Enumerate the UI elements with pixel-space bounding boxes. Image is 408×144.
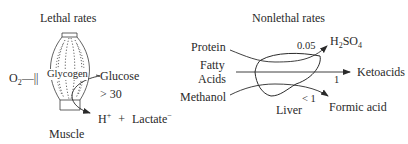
- liver-label: Liver: [276, 104, 302, 116]
- oxygen-blocked-label: O2—||: [9, 72, 38, 84]
- fatty-acids-rate-value: 1: [334, 75, 339, 86]
- liver-shape: [255, 53, 320, 96]
- metabolic-rates-diagram: Lethal rates O2—|| Glycogen Glucose > 30…: [0, 0, 408, 144]
- lactate-product-label: H+ + Lactate−: [98, 113, 172, 125]
- protein-rate-value: 0.05: [297, 41, 315, 52]
- lethal-rates-title: Lethal rates: [40, 12, 96, 24]
- protein-label: Protein: [191, 41, 226, 53]
- methanol-label: Methanol: [180, 91, 226, 103]
- muscle-label: Muscle: [49, 128, 84, 140]
- muscle-rate-value: > 30: [100, 88, 122, 100]
- nonlethal-rates-title: Nonlethal rates: [252, 12, 325, 24]
- acids-label: Acids: [198, 73, 226, 85]
- glucose-label: Glucose: [100, 70, 139, 82]
- glucose-arrow: [72, 76, 100, 113]
- methanol-rate-value: < 1: [302, 94, 316, 105]
- formic-acid-label: Formic acid: [329, 101, 387, 113]
- sulfuric-acid-label: H2SO4: [330, 35, 362, 47]
- glycogen-label: Glycogen: [47, 69, 88, 80]
- fatty-label: Fatty: [200, 59, 225, 71]
- ketoacids-label: Ketoacids: [357, 66, 405, 78]
